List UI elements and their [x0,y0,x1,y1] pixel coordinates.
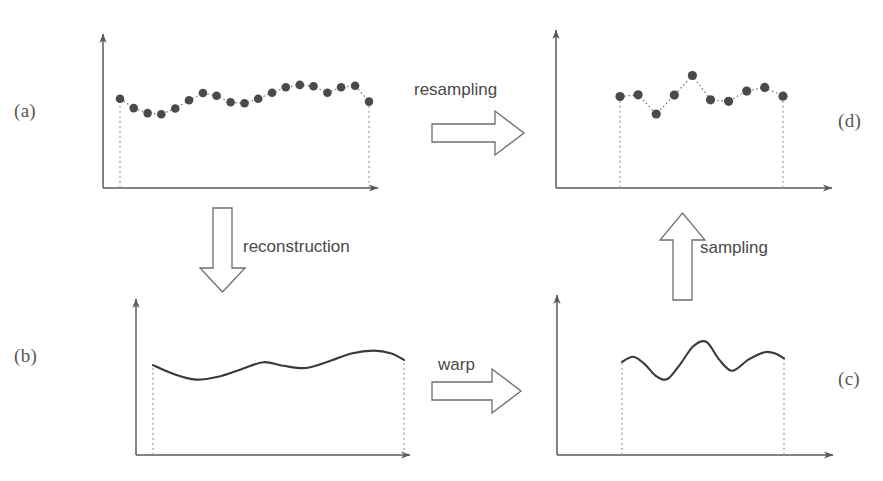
sample-dot [760,83,769,92]
sample-dot [688,71,697,80]
sample-dot [309,82,318,91]
sample-dot [226,98,235,107]
panel-b [136,299,410,455]
reconstruction-arrow-label: reconstruction [243,237,350,257]
panel-d [556,30,832,188]
panel-label-b: (b) [14,345,37,367]
sample-dot [323,88,332,97]
sample-dot [185,96,194,105]
sampling-arrow-label: sampling [700,238,768,258]
resampling-arrow-label: resampling [414,80,497,100]
sample-dot [652,109,661,118]
sample-dot [282,83,291,92]
sample-dot [199,89,208,98]
sample-dot [129,104,138,113]
sample-dot [778,92,787,101]
sample-dot [351,82,360,91]
sample-dot [268,88,277,97]
sample-dot [171,104,180,113]
sample-dot [615,92,624,101]
sample-dot [742,87,751,96]
sample-dot [212,92,221,101]
sample-dot [157,110,166,119]
warp-arrow-label: warp [438,355,475,375]
panel-label-d: (d) [838,110,861,132]
panel-c-warped-curve [622,341,784,380]
sample-dot [240,99,249,108]
sample-dot [143,109,152,118]
sample-dot [116,94,125,103]
panel-label-a: (a) [14,100,36,122]
sample-dot [634,90,643,99]
panel-d-sample-connector [620,76,783,115]
panel-b-signal-curve [153,351,404,380]
sample-dot [670,91,679,100]
panel-a-sample-dots [116,81,374,119]
sample-dot [365,97,374,106]
sample-dot [337,83,346,92]
panel-d-sample-dots [615,71,787,119]
sample-dot [254,94,263,103]
panel-a [103,34,378,188]
sample-dot [296,81,305,90]
sample-dot [706,95,715,104]
panel-c [557,295,833,455]
warp-arrow-icon [432,369,521,413]
resampling-pipeline-figure: (a) (b) (c) (d) resampling reconstructio… [0,0,883,481]
sampling-arrow-icon [660,213,705,300]
panel-label-c: (c) [838,368,860,390]
sample-dot [724,97,733,106]
reconstruction-arrow-icon [200,208,245,292]
resampling-arrow-icon [432,111,524,155]
